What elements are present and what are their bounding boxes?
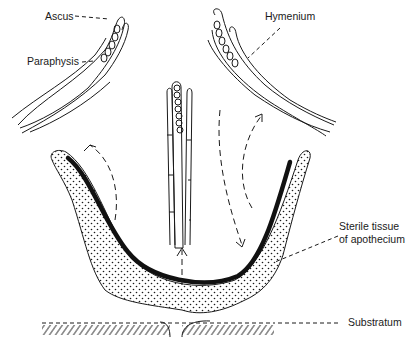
- label-ascus: Ascus: [45, 10, 74, 23]
- center-hymenium-fragment: [167, 82, 192, 248]
- right-hymenium-fragment: [208, 9, 336, 136]
- label-sterile-tissue-line1: Sterile tissue: [339, 220, 399, 233]
- apothecium-cup: [51, 150, 310, 312]
- apothecium-diagram: Ascus Paraphysis Hymenium Sterile tissue…: [0, 0, 411, 345]
- label-hymenium: Hymenium: [265, 10, 315, 23]
- label-sterile-tissue-line2: of apothecium: [339, 233, 405, 246]
- substratum-hatching: [42, 321, 275, 337]
- diagram-drawing: [0, 0, 411, 345]
- label-substratum: Substratum: [348, 316, 402, 329]
- left-hymenium-fragment: [12, 17, 128, 133]
- label-paraphysis: Paraphysis: [27, 55, 79, 68]
